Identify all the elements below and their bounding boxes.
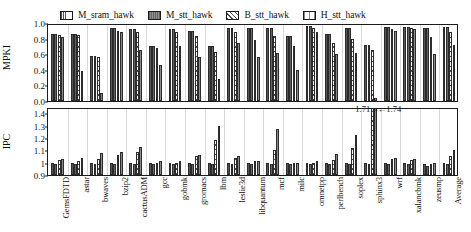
legend-item-m-stt-hawk[interactable]: M_stt_hawk (148, 10, 213, 20)
bar-ipc-libquantum-H_stt_hawk (257, 161, 260, 175)
bar-ipc-GemsFDTD-H_stt_hawk (61, 159, 64, 175)
x-axis-label-gobmk: gobmk (179, 177, 189, 200)
mpki-y-ticks: 0.00.20.40.60.81.0 (0, 24, 45, 102)
legend-item-m-sram-hawk[interactable]: M_sram_hawk (60, 10, 134, 20)
mpki-ytick-label: 0.2 (34, 81, 45, 91)
group-separator (165, 25, 166, 101)
group-separator (205, 109, 206, 175)
group-separator (68, 109, 69, 175)
x-axis-label-bzip2: bzip2 (120, 177, 130, 195)
bar-ipc-astar-H_stt_hawk (81, 158, 84, 175)
mpki-ytick-label: 0.6 (34, 50, 45, 60)
x-axis-label-omnetpp: omnetpp (316, 177, 326, 206)
bar-ipc-leslie3d-H_stt_hawk (237, 156, 240, 175)
group-separator (185, 109, 186, 175)
mstt-solid-swatch (148, 11, 161, 20)
x-axis-label-wrf: wrf (394, 177, 404, 188)
bar-mpki-Average-H_stt_hawk (453, 45, 456, 101)
group-separator (400, 25, 401, 101)
chart-legend: M_sram_hawkM_stt_hawkB_stt_hawkH_stt_haw… (60, 8, 460, 22)
figure-container: M_sram_hawkM_stt_hawkB_stt_hawkH_stt_haw… (0, 0, 471, 232)
hstt-pattern-swatch (303, 11, 316, 20)
group-separator (322, 25, 323, 101)
x-axis-label-zeusmp: zeusmp (433, 177, 443, 202)
group-separator (165, 109, 166, 175)
ipc-ytick-label: 1.1 (34, 146, 45, 156)
ipc-ytick-label: 1.4 (34, 109, 45, 119)
x-axis-label-Average: Average (453, 177, 463, 204)
bar-mpki-gobmk-H_stt_hawk (179, 46, 182, 101)
mpki-ytick-label: 0.4 (34, 66, 45, 76)
x-axis-label-perlbench: perlbench (335, 177, 345, 210)
x-axis-label-gromacs: gromacs (198, 177, 208, 205)
bar-mpki-wrf-H_stt_hawk (394, 31, 397, 101)
x-axis-label-sphinx3: sphinx3 (374, 177, 384, 203)
group-separator (263, 25, 264, 101)
x-axis-label-bwaves: bwaves (100, 177, 110, 202)
ipc-overflow-annotation: 1.71→ (355, 104, 378, 114)
group-separator (107, 109, 108, 175)
bar-mpki-cactusADM-H_stt_hawk (139, 50, 142, 101)
bar-ipc-zeusmp-H_stt_hawk (433, 163, 436, 175)
x-axis-labels: GemsFDTDastarbwavesbzip2cactusADMgccgobm… (47, 177, 458, 232)
group-separator (146, 25, 147, 101)
sram-pattern-swatch (60, 11, 73, 20)
bar-ipc-gcc-H_stt_hawk (159, 161, 162, 175)
bar-mpki-GemsFDTD-H_stt_hawk (61, 37, 64, 101)
group-separator (342, 109, 343, 175)
bstt-hatch-swatch (226, 11, 239, 20)
mpki-ytick-label: 0.8 (34, 35, 45, 45)
legend-label: M_stt_hawk (166, 10, 213, 20)
bar-mpki-omnetpp-H_stt_hawk (316, 32, 319, 101)
group-separator (439, 25, 440, 101)
group-separator (244, 25, 245, 101)
group-separator (361, 109, 362, 175)
bar-ipc-bwaves-H_stt_hawk (100, 153, 103, 175)
bar-mpki-soplex-H_stt_hawk (355, 53, 358, 101)
x-axis-label-astar: astar (81, 177, 91, 192)
legend-item-h-stt-hawk[interactable]: H_stt_hawk (303, 10, 366, 20)
bar-mpki-sphinx3-B_stt_hawk (371, 50, 374, 101)
ipc-ytick-label: 0.9 (34, 171, 45, 181)
bar-ipc-mcf-H_stt_hawk (276, 129, 279, 175)
bar-mpki-mcf-H_stt_hawk (276, 53, 279, 101)
group-separator (126, 25, 127, 101)
ipc-plot-area (48, 109, 457, 175)
group-separator (342, 25, 343, 101)
bar-ipc-cactusADM-H_stt_hawk (139, 147, 142, 175)
ipc-plot-panel (47, 108, 458, 176)
bar-ipc-perlbench-H_stt_hawk (335, 154, 338, 175)
group-separator (439, 109, 440, 175)
group-separator (302, 109, 303, 175)
bar-ipc-soplex-H_stt_hawk (355, 135, 358, 175)
group-separator (420, 109, 421, 175)
bar-ipc-xalancbmk-H_stt_hawk (413, 159, 416, 175)
bar-ipc-wrf-H_stt_hawk (394, 158, 397, 175)
group-separator (87, 25, 88, 101)
legend-item-b-stt-hawk[interactable]: B_stt_hawk (226, 10, 288, 20)
bar-mpki-xalancbmk-H_stt_hawk (413, 29, 416, 101)
group-separator (68, 25, 69, 101)
bar-mpki-zeusmp-H_stt_hawk (433, 54, 436, 101)
bar-mpki-libquantum-H_stt_hawk (257, 57, 260, 101)
x-axis-label-soplex: soplex (355, 177, 365, 199)
group-separator (283, 109, 284, 175)
group-separator (322, 109, 323, 175)
bar-ipc-bzip2-H_stt_hawk (120, 152, 123, 175)
group-separator (126, 109, 127, 175)
x-axis-label-leslie3d: leslie3d (237, 177, 247, 203)
group-separator (205, 25, 206, 101)
mpki-plot-area (48, 25, 457, 101)
bar-ipc-Average-H_stt_hawk (453, 150, 456, 175)
x-axis-label-mcf: mcf (276, 177, 286, 190)
bar-ipc-milc-H_stt_hawk (296, 163, 299, 175)
ipc-ytick-label: 1.2 (34, 134, 45, 144)
bar-mpki-lbm-H_stt_hawk (218, 79, 221, 101)
group-separator (185, 25, 186, 101)
bar-ipc-sphinx3-H_stt_hawk (374, 109, 377, 175)
x-axis-label-libquantum: libquantum (257, 177, 267, 215)
group-separator (302, 25, 303, 101)
legend-label: B_stt_hawk (244, 10, 288, 20)
ipc-ytick-label: 1.3 (34, 122, 45, 132)
group-separator (224, 25, 225, 101)
